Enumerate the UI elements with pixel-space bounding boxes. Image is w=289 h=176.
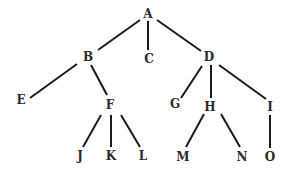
edge-h-n	[221, 114, 240, 147]
tree-diagram: ABCDEFGHIJKLMNO	[0, 0, 289, 176]
edge-b-e	[30, 64, 77, 98]
edge-d-g	[181, 66, 202, 98]
node-f: F	[106, 98, 115, 112]
node-l: L	[139, 149, 148, 163]
node-c: C	[144, 52, 154, 66]
node-g: G	[170, 97, 180, 111]
node-i: I	[267, 100, 273, 114]
edge-d-i	[219, 65, 266, 99]
edge-f-l	[121, 115, 140, 147]
edge-b-f	[91, 65, 107, 95]
node-k: K	[106, 149, 117, 163]
edge-a-d	[157, 20, 201, 51]
node-j: J	[76, 149, 83, 163]
node-h: H	[204, 100, 215, 114]
node-n: N	[237, 150, 248, 164]
tree-edges	[30, 20, 270, 148]
edge-h-m	[186, 114, 204, 147]
node-m: M	[176, 150, 189, 164]
node-d: D	[204, 50, 214, 64]
node-o: O	[265, 150, 275, 164]
node-a: A	[142, 7, 153, 21]
edge-a-b	[98, 20, 140, 50]
node-e: E	[16, 93, 25, 107]
edge-f-j	[83, 115, 101, 147]
node-b: B	[83, 50, 93, 64]
